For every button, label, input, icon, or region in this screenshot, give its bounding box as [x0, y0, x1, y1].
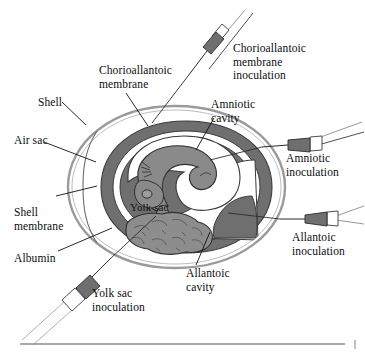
amniotic-syringe-flange — [310, 136, 322, 151]
allantoic-syringe-plunger-top — [336, 206, 364, 216]
label-amniotic-inoculation: Amniotic inoculation — [286, 152, 339, 179]
embryo-eye — [142, 190, 152, 198]
yolk-syringe-plunger-bottom — [33, 310, 72, 345]
label-allantoic-inoculation: Allantoic inoculation — [292, 231, 345, 258]
egg-inoculation-diagram: Shell Air sac Shell membrane Albumin Cho… — [0, 0, 365, 353]
yolk-syringe-needle — [92, 259, 110, 277]
label-albumin: Albumin — [14, 252, 56, 266]
allantoic-syringe-plunger-bottom — [336, 220, 364, 224]
label-amniotic-cavity: Amniotic cavity — [211, 98, 255, 125]
label-chorioallantoic-membrane-inoculation: Chorioallantoic membrane inoculation — [233, 42, 306, 83]
label-shell-membrane: Shell membrane — [14, 206, 63, 233]
cam-syringe-needle — [188, 51, 207, 76]
label-yolk-sac-inoculation: Yolk sac inoculation — [92, 287, 145, 314]
label-shell: Shell — [38, 96, 62, 110]
label-air-sac: Air sac — [14, 134, 48, 148]
leader-shell — [62, 102, 86, 125]
allantoic-syringe-barrel — [305, 212, 327, 226]
amniotic-syringe-barrel — [288, 138, 310, 152]
label-yolk-sac: Yolk sac — [130, 201, 169, 215]
yolk-syringe-plunger-top — [22, 302, 64, 340]
label-allantoic-cavity: Allantoic cavity — [186, 267, 230, 294]
label-chorioallantoic-membrane: Chorioallantoic membrane — [99, 64, 172, 91]
amniotic-syringe-plunger-rod — [318, 132, 364, 145]
allantoic-syringe-flange — [327, 211, 338, 226]
bottom-rule-group — [20, 340, 355, 349]
